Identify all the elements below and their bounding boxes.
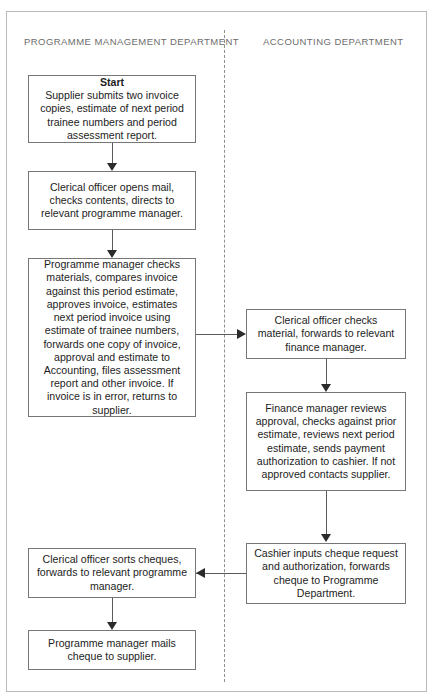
arrow-down-icon-clerical-officer-sorts-to-programme-manager-mails xyxy=(107,622,117,630)
arrow-left-icon-cashier-to-clerical-officer-sorts-cheques xyxy=(196,568,205,578)
arrow-down-icon-clerical-officer-mail-to-programme-manager xyxy=(107,250,117,258)
node-start-supplier-submits-invoice[interactable]: Start Supplier submits two invoice copie… xyxy=(28,75,196,143)
connector-clerical-officer-checks-to-finance-manager xyxy=(326,359,327,385)
swimlane-divider xyxy=(224,30,225,682)
node-text-programme-manager-mails-cheque: Programme manager mails cheque to suppli… xyxy=(36,637,188,663)
arrow-down-icon-clerical-officer-checks-to-finance-manager xyxy=(321,384,331,392)
node-text-cashier-inputs-cheque-request: Cashier inputs cheque request and author… xyxy=(254,547,398,600)
node-finance-manager-reviews-approval[interactable]: Finance manager reviews approval, checks… xyxy=(246,392,406,491)
node-clerical-officer-sorts-cheques[interactable]: Clerical officer sorts cheques, forwards… xyxy=(28,548,196,598)
connector-clerical-officer-mail-to-programme-manager xyxy=(112,230,113,251)
node-text-programme-manager-checks-materials: Programme manager checks materials, comp… xyxy=(36,258,188,416)
arrow-down-icon-start-to-clerical-officer-mail xyxy=(107,163,117,171)
arrow-right-icon-programme-manager-to-accounting-clerical-officer xyxy=(237,329,246,339)
node-text-clerical-officer-opens-mail: Clerical officer opens mail, checks cont… xyxy=(36,181,188,221)
node-text-clerical-officer-checks-material: Clerical officer checks material, forwar… xyxy=(254,314,398,354)
lane-title-accounting-department: ACCOUNTING DEPARTMENT xyxy=(263,36,404,47)
node-title-start: Start xyxy=(100,76,124,89)
node-cashier-inputs-cheque-request[interactable]: Cashier inputs cheque request and author… xyxy=(246,543,406,604)
node-clerical-officer-opens-mail[interactable]: Clerical officer opens mail, checks cont… xyxy=(28,171,196,230)
node-clerical-officer-checks-material[interactable]: Clerical officer checks material, forwar… xyxy=(246,309,406,359)
arrow-down-icon-finance-manager-to-cashier xyxy=(321,534,331,542)
node-programme-manager-checks-materials[interactable]: Programme manager checks materials, comp… xyxy=(28,258,196,417)
node-text-clerical-officer-sorts-cheques: Clerical officer sorts cheques, forwards… xyxy=(36,553,188,593)
connector-clerical-officer-sorts-to-programme-manager-mails xyxy=(112,598,113,623)
flowchart-page: PROGRAMME MANAGEMENT DEPARTMENT ACCOUNTI… xyxy=(0,0,433,700)
node-text-start: Supplier submits two invoice copies, est… xyxy=(36,89,188,142)
connector-programme-manager-to-accounting-clerical-officer xyxy=(196,334,238,335)
node-programme-manager-mails-cheque[interactable]: Programme manager mails cheque to suppli… xyxy=(28,630,196,670)
connector-start-to-clerical-officer-mail xyxy=(112,143,113,164)
connector-finance-manager-to-cashier xyxy=(326,491,327,535)
lane-title-programme-management-department: PROGRAMME MANAGEMENT DEPARTMENT xyxy=(24,36,239,47)
node-text-finance-manager-reviews-approval: Finance manager reviews approval, checks… xyxy=(254,402,398,481)
